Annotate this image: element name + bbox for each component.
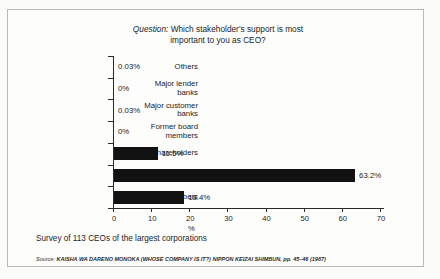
figure-frame: Question: Which stakeholder's support is… xyxy=(7,9,424,267)
bar-value-label: 0.03% xyxy=(118,106,140,115)
bar-row: Major lenderbanks0% xyxy=(106,78,388,100)
x-axis-tick-label: 60 xyxy=(339,214,347,223)
bar-row: Board members18.4% xyxy=(106,186,388,208)
bar-row: Major customerbanks0.03% xyxy=(106,99,388,121)
bar xyxy=(114,191,184,204)
chart-title-line2: important to you as CEO? xyxy=(170,35,265,45)
source-note: Source: KAISHA WA DARENO MONOKA (WHOSE C… xyxy=(36,256,326,262)
x-axis-tick xyxy=(151,208,152,212)
chart-title-line1: Which stakeholder's support is most xyxy=(168,24,303,34)
source-pages: , pp. 45–46 (1987) xyxy=(280,256,326,262)
x-axis-line xyxy=(113,208,384,209)
bar-rows: Others0.03%Major lenderbanks0%Major cust… xyxy=(106,56,388,208)
bar-chart-plot: Others0.03%Major lenderbanks0%Major cust… xyxy=(106,56,388,208)
category-label: Others xyxy=(102,63,198,72)
x-axis-tick-label: 70 xyxy=(377,214,385,223)
bar-value-label: 0% xyxy=(118,84,129,93)
x-axis-tick xyxy=(266,208,267,212)
x-axis-tick-label: 0 xyxy=(112,214,116,223)
y-axis-tick xyxy=(108,121,113,122)
source-work-translation: (WHOSE COMPANY IS IT?) xyxy=(139,256,212,262)
bar-value-label: 0.03% xyxy=(118,62,140,71)
bar-row: Shareholders11.5% xyxy=(106,143,388,165)
scanned-page: Question: Which stakeholder's support is… xyxy=(0,0,440,279)
bar-value-label: 18.4% xyxy=(188,193,210,202)
bar-row: Former boardmembers0% xyxy=(106,121,388,143)
bar xyxy=(114,147,158,160)
bar-row: Others0.03% xyxy=(106,56,388,78)
x-axis-tick xyxy=(189,208,190,212)
category-label: Major customerbanks xyxy=(102,102,198,119)
category-label: Major lenderbanks xyxy=(102,80,198,97)
y-axis-tick xyxy=(108,186,113,187)
x-axis-tick xyxy=(227,208,228,212)
y-axis-tick xyxy=(108,56,113,57)
y-axis-tick xyxy=(108,99,113,100)
x-axis-title: % xyxy=(188,224,195,233)
x-axis-tick xyxy=(113,208,114,212)
x-axis-tick-label: 10 xyxy=(148,214,156,223)
x-axis-tick xyxy=(304,208,305,212)
x-axis-tick xyxy=(380,208,381,212)
y-axis-tick xyxy=(108,78,113,79)
bar xyxy=(114,169,355,182)
x-axis-tick-label: 30 xyxy=(224,214,232,223)
y-axis-tick xyxy=(108,143,113,144)
survey-note: Survey of 113 CEOs of the largest corpor… xyxy=(36,234,207,243)
source-publication: NIPPON KEIZAI SHIMBUN xyxy=(212,256,280,262)
chart-title-question-prefix: Question: xyxy=(133,24,169,34)
source-work-title: KAISHA WA DARENO MONOKA xyxy=(57,256,140,262)
y-axis-tick xyxy=(108,165,113,166)
bar-row: Employees63.2% xyxy=(106,165,388,187)
chart-title: Question: Which stakeholder's support is… xyxy=(68,24,368,46)
category-label: Former boardmembers xyxy=(102,123,198,140)
source-label: Source: xyxy=(36,256,55,262)
y-axis-tick xyxy=(108,208,113,209)
x-axis-tick xyxy=(342,208,343,212)
x-axis-tick-label: 40 xyxy=(262,214,270,223)
bar-value-label: 63.2% xyxy=(359,171,381,180)
x-axis-tick-label: 20 xyxy=(186,214,194,223)
x-axis-tick-label: 50 xyxy=(300,214,308,223)
bar-value-label: 0% xyxy=(118,127,129,136)
bar-value-label: 11.5% xyxy=(162,149,184,158)
